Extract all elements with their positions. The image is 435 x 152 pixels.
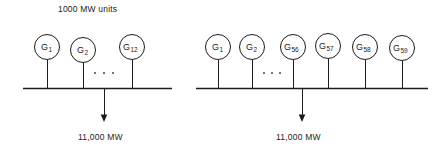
- units-annotation-label: 1000 MW units: [58, 4, 117, 14]
- generator-label-subscript: 1: [220, 46, 224, 53]
- generator-label-subscript: 58: [364, 46, 372, 53]
- generator-left-1: G 1: [35, 35, 60, 89]
- generator-left-2: G 2: [71, 38, 96, 89]
- right-output-label: 11,000 MW: [276, 132, 321, 142]
- generator-label-subscript: 1: [49, 46, 53, 53]
- left-group-ellipsis: [94, 72, 114, 74]
- generator-label: G: [319, 41, 326, 51]
- right-group-ellipsis: [263, 72, 281, 74]
- generator-label: G: [77, 45, 84, 55]
- generator-label: G: [212, 42, 219, 52]
- generator-left-12: G 12: [120, 35, 145, 89]
- left-group: 1000 MW units G 1 G 2: [23, 4, 172, 142]
- generator-label-subscript: 57: [327, 45, 335, 52]
- generator-right-56: G 56: [281, 35, 306, 89]
- generator-label: G: [356, 42, 363, 52]
- arrow-head-icon: [101, 115, 108, 123]
- generator-label: G: [246, 42, 253, 52]
- generator-label: G: [41, 42, 48, 52]
- right-output-arrow: [299, 89, 306, 123]
- arrow-head-icon: [299, 115, 306, 123]
- generator-label-subscript: 12: [131, 46, 139, 53]
- generator-label: G: [123, 42, 130, 52]
- left-output-label: 11,000 MW: [78, 132, 123, 142]
- generator-label-subscript: 59: [401, 47, 409, 54]
- generator-right-57: G 57: [316, 34, 341, 89]
- generator-right-1: G 1: [206, 35, 231, 89]
- generator-right-2: G 2: [240, 35, 265, 89]
- diagram-canvas: 1000 MW units G 1 G 2: [0, 0, 435, 152]
- generator-label: G: [393, 43, 400, 53]
- right-group: G 1 G 2 G 56: [196, 34, 428, 143]
- generator-label-subscript: 56: [292, 46, 300, 53]
- left-output-arrow: [101, 89, 108, 123]
- generator-label-subscript: 2: [254, 46, 258, 53]
- generator-right-58: G 58: [353, 35, 378, 89]
- generator-label: G: [284, 42, 291, 52]
- generator-label-subscript: 2: [85, 49, 89, 56]
- generator-right-59: G 59: [390, 36, 415, 89]
- power-system-one-line-diagram: 1000 MW units G 1 G 2: [0, 0, 435, 152]
